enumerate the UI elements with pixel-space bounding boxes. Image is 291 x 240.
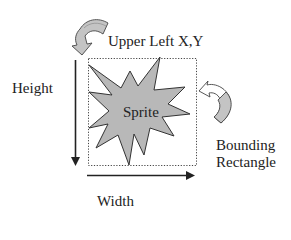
width-label: Width bbox=[97, 193, 134, 209]
sprite-label: Sprite bbox=[123, 104, 159, 120]
height-label: Height bbox=[12, 80, 53, 96]
upper-left-pointer-arrow-icon bbox=[72, 20, 108, 55]
width-arrow bbox=[87, 171, 195, 180]
bounding-rectangle-label: Bounding Rectangle bbox=[216, 137, 286, 171]
upper-left-label: Upper Left X,Y bbox=[108, 33, 203, 49]
bounding-label-line1: Bounding bbox=[216, 137, 286, 154]
height-arrow bbox=[71, 60, 80, 166]
bounding-pointer-arrow-icon bbox=[199, 81, 231, 123]
bounding-label-line2: Rectangle bbox=[216, 154, 286, 171]
